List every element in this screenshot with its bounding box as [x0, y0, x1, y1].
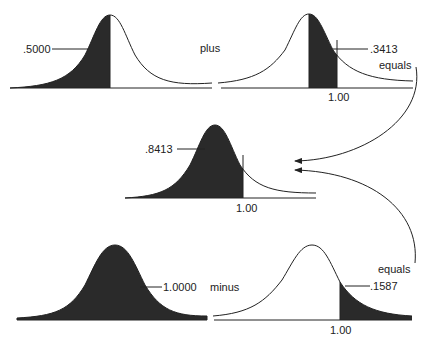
arrow-bottom-to-middle: [295, 170, 415, 263]
label-top-left-area: .5000: [23, 43, 51, 55]
label-middle-axis: 1.00: [236, 202, 257, 214]
label-top-right-axis: 1.00: [328, 91, 349, 103]
label-middle-area: .8413: [145, 143, 173, 155]
label-minus: minus: [210, 281, 239, 293]
label-equals-bottom: equals: [378, 263, 410, 275]
label-top-right-area: .3413: [370, 43, 398, 55]
label-plus: plus: [200, 42, 220, 54]
label-bottom-right-axis: 1.00: [330, 324, 351, 336]
curve-middle: [125, 125, 316, 198]
label-bottom-right-area: .1587: [370, 280, 398, 292]
label-bottom-left-area: 1.0000: [163, 281, 197, 293]
label-equals-top: equals: [379, 59, 411, 71]
